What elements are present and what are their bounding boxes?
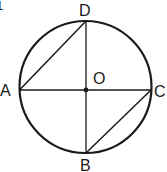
label-b: B	[80, 157, 91, 172]
label-c: C	[154, 83, 166, 100]
label-d: D	[79, 2, 91, 19]
figure-number: 1	[0, 0, 3, 13]
label-o: O	[93, 70, 105, 87]
label-a: A	[0, 82, 11, 99]
geometry-diagram: 1 D A C B O	[0, 0, 167, 172]
center-point-o	[84, 88, 89, 93]
segment-ad	[20, 21, 87, 90]
